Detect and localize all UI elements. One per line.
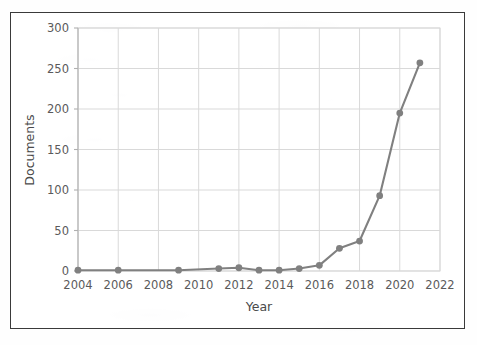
data-point-2011 [215,265,222,272]
x-tick-label-2016: 2016 [305,278,334,292]
y-tick-label-0: 0 [62,264,69,278]
y-axis-ticks [74,28,78,271]
x-tick-label-2008: 2008 [144,278,173,292]
line-chart: 050100150200250300 200420062008201020122… [0,0,477,345]
data-point-2020 [396,110,403,117]
data-point-2009 [175,267,182,274]
data-point-2015 [296,265,303,272]
y-axis-tick-labels: 050100150200250300 [47,21,69,278]
data-point-2006 [115,267,122,274]
chart-svg: 050100150200250300 200420062008201020122… [0,0,477,345]
x-axis-title: Year [245,299,273,314]
y-tick-label-250: 250 [47,62,69,76]
data-point-2012 [235,264,242,271]
x-tick-label-2012: 2012 [224,278,253,292]
x-tick-label-2010: 2010 [184,278,213,292]
y-tick-label-100: 100 [47,183,69,197]
x-tick-label-2020: 2020 [385,278,414,292]
data-point-2013 [256,267,263,274]
data-point-2021 [416,59,423,66]
y-axis-title: Documents [22,114,37,185]
x-tick-label-2014: 2014 [264,278,293,292]
y-tick-label-150: 150 [47,143,69,157]
data-point-2019 [376,192,383,199]
x-tick-label-2022: 2022 [425,278,454,292]
x-tick-label-2004: 2004 [63,278,92,292]
data-point-2017 [336,245,343,252]
data-point-2014 [276,267,283,274]
data-point-2016 [316,262,323,269]
y-tick-label-200: 200 [47,102,69,116]
data-point-2004 [75,267,82,274]
x-tick-label-2018: 2018 [345,278,374,292]
x-axis-tick-labels: 2004200620082010201220142016201820202022 [63,278,454,292]
y-tick-label-50: 50 [54,224,69,238]
y-tick-label-300: 300 [47,21,69,35]
x-tick-label-2006: 2006 [104,278,133,292]
figure-root: 050100150200250300 200420062008201020122… [0,0,477,345]
data-point-2018 [356,238,363,245]
